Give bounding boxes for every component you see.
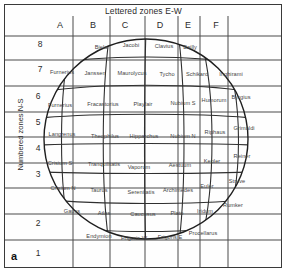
feature-label-serenitatis: Serenitatis	[128, 189, 155, 195]
row-number-3: 3	[28, 169, 48, 179]
feature-label-clavius: Clavius	[155, 43, 174, 49]
feature-label-tycho: Tycho	[159, 71, 174, 77]
globe-meridian-4	[178, 32, 184, 250]
feature-label-janssen: Janssen	[84, 70, 105, 76]
feature-label-caucasus: Caucasus	[130, 211, 155, 217]
globe-parallel-1	[40, 57, 252, 66]
feature-label-crisium-n: Crisium N	[51, 185, 76, 191]
row-number-5: 5	[28, 117, 48, 127]
column-letter-d: D	[150, 20, 170, 30]
row-number-6: 6	[28, 91, 48, 101]
feature-label-crisium-s: Crisium S	[48, 160, 73, 166]
feature-label-frigoris-w: Frigoris W	[121, 235, 147, 241]
feature-label-furnerius-6: Furnerius	[48, 102, 72, 108]
feature-label-biela: Biela	[95, 44, 108, 50]
column-letter-f: F	[206, 20, 226, 30]
feature-label-jacobi: Jacobi	[123, 42, 139, 48]
feature-label-frigoris-e: Frigoris E	[158, 234, 182, 240]
row-number-1: 1	[28, 248, 48, 258]
feature-label-rumker: Rumker	[223, 202, 243, 208]
feature-label-tranquilitatis: Tranquilitatis	[88, 161, 120, 167]
globe-parallel-6	[40, 199, 252, 204]
feature-label-playfair: Playfair	[133, 101, 152, 107]
feature-label-endymion: Endymion	[86, 233, 111, 239]
feature-label-atlas: Atlas	[98, 210, 111, 216]
column-letter-a: A	[50, 20, 70, 30]
feature-label-grimaldi: Grimaldi	[233, 125, 254, 131]
panel-letter: a	[11, 250, 17, 262]
lunar-zone-chart: Lettered zones E-W Numbered zones N-S	[0, 0, 287, 272]
globe-parallel-3	[40, 114, 252, 118]
globe-graticule	[40, 30, 252, 252]
feature-label-iridum: Iridum	[197, 208, 213, 214]
feature-label-plato: Plato	[171, 210, 184, 216]
feature-label-nubium-s: Nubium S	[171, 100, 196, 106]
feature-label-inghirami: Inghirami	[219, 71, 242, 77]
feature-label-humorum: Humorum	[202, 97, 227, 103]
globe-meridian-2	[103, 32, 110, 250]
feature-label-euler: Euler	[200, 183, 213, 189]
feature-label-archimedes: Archimedes	[163, 187, 193, 193]
feature-label-maurolycus: Maurolycus	[117, 70, 146, 76]
feature-label-schikard: Schikard	[186, 71, 208, 77]
feature-label-taurus: Taurus	[90, 187, 107, 193]
feature-label-nubium-n: Nubium N	[170, 133, 195, 139]
feature-label-aestuum: Aestuum	[169, 162, 191, 168]
feature-label-vaporum: Vaporum	[128, 164, 151, 170]
column-letter-b: B	[83, 20, 103, 30]
feature-label-gauss: Gauss	[64, 208, 80, 214]
row-number-7: 7	[30, 64, 50, 74]
globe-parallel-5	[40, 172, 252, 174]
feature-label-bailly: Bailly	[183, 44, 197, 50]
feature-label-procellarus: Procellarus	[189, 230, 218, 236]
feature-label-theophilus: Theophilus	[91, 133, 119, 139]
row-number-2: 2	[28, 218, 48, 228]
feature-label-riphaus: Riphaus	[205, 129, 226, 135]
feature-label-fracastorius: Fracastorius	[87, 101, 118, 107]
globe-parallel-4	[40, 144, 252, 146]
feature-label-langrenus: Langrenus	[49, 131, 76, 137]
feature-label-reiner: Reiner	[234, 153, 251, 159]
column-letter-c: C	[115, 20, 135, 30]
feature-label-furnerius-7: Furnerius	[50, 69, 74, 75]
globe-parallel-7	[40, 224, 252, 232]
feature-label-struve: Struve	[229, 178, 245, 184]
column-letter-e: E	[178, 20, 198, 30]
row-number-8: 8	[30, 39, 50, 49]
feature-label-hipparchus: Hipparchus	[130, 133, 159, 139]
feature-label-kepler: Kepler	[204, 158, 220, 164]
feature-label-byrgius: Byrgius	[231, 94, 250, 100]
row-number-4: 4	[28, 143, 48, 153]
